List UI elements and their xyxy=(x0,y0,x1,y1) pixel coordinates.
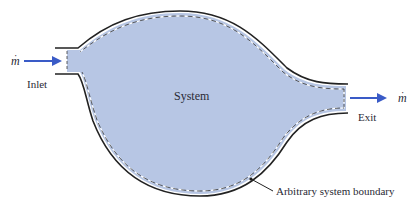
system-region xyxy=(67,13,346,194)
inlet-flow-arrow xyxy=(24,56,62,66)
mass-flow-in-label: m · xyxy=(11,55,20,67)
mass-flow-in-dot: · xyxy=(14,51,17,61)
mass-flow-out-label: m · xyxy=(398,92,407,104)
exit-flow-arrow xyxy=(350,93,387,103)
inlet-label: Inlet xyxy=(27,79,47,90)
exit-label: Exit xyxy=(358,112,376,123)
control-volume-diagram: m · Inlet System m · Exit Arbitrary syst… xyxy=(0,0,417,204)
mass-flow-out-dot: · xyxy=(401,88,404,98)
system-label: System xyxy=(174,90,209,102)
boundary-label: Arbitrary system boundary xyxy=(276,186,395,197)
